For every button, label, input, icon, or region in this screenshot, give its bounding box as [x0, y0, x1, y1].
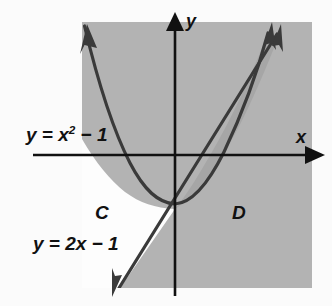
y-axis-arrowhead — [166, 12, 184, 31]
y-axis-label: y — [186, 12, 196, 30]
graph-svg — [0, 0, 332, 306]
region-c-label: C — [95, 203, 109, 222]
parabola-equation-suffix: − 1 — [75, 124, 107, 145]
parabola-equation-prefix: y = x — [26, 124, 69, 145]
region-d-label: D — [232, 203, 246, 222]
line-equation-label: y = 2x − 1 — [33, 234, 119, 253]
figure-canvas: x y y = x2 − 1 y = 2x − 1 C D — [0, 0, 332, 306]
x-axis-arrowhead — [305, 146, 325, 164]
parabola-equation-label: y = x2 − 1 — [26, 124, 108, 144]
x-axis-label: x — [296, 128, 306, 146]
